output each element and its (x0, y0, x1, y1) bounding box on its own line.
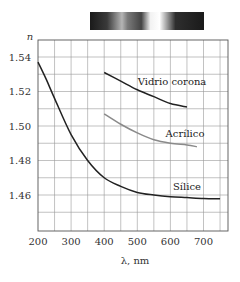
y-tick-label: 1.54 (9, 52, 31, 63)
x-tick-label: 400 (95, 236, 114, 247)
x-tick-label: 700 (194, 236, 213, 247)
y-axis-ticks: 1.461.481.501.521.54 (9, 52, 31, 201)
x-tick-label: 300 (62, 236, 81, 247)
x-axis-label: λ, nm (121, 255, 150, 266)
y-tick-label: 1.48 (9, 155, 31, 166)
x-tick-label: 500 (128, 236, 147, 247)
x-axis-ticks: 200300400500600700 (28, 236, 213, 247)
y-tick-label: 1.46 (9, 190, 31, 201)
x-tick-label: 600 (161, 236, 180, 247)
label-acrilico: Acrílico (165, 128, 205, 139)
y-tick-label: 1.52 (9, 86, 31, 97)
x-tick-label: 200 (28, 236, 47, 247)
y-axis-label: n (27, 31, 33, 42)
refractive-index-chart: 1.461.481.501.521.54 200300400500600700 … (0, 0, 240, 282)
label-vidrio-corona: Vidrio corona (137, 76, 207, 87)
y-tick-label: 1.50 (9, 121, 31, 132)
label-silice: Sílice (173, 181, 201, 192)
